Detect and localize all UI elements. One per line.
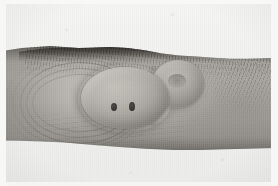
primary-lesion-punctum-left	[111, 103, 117, 111]
print-margin-left	[0, 0, 6, 186]
primary-lesion-punctum-right	[129, 102, 135, 111]
print-margin-right	[271, 0, 278, 186]
print-margin-top	[0, 0, 278, 4]
forearm-region	[0, 0, 278, 186]
secondary-lesion-umbilication	[168, 74, 186, 88]
clinical-photograph: Clinical photograph of the flexor aspect…	[0, 0, 278, 186]
primary-lesion	[81, 67, 169, 129]
print-margin-bottom	[0, 182, 278, 186]
